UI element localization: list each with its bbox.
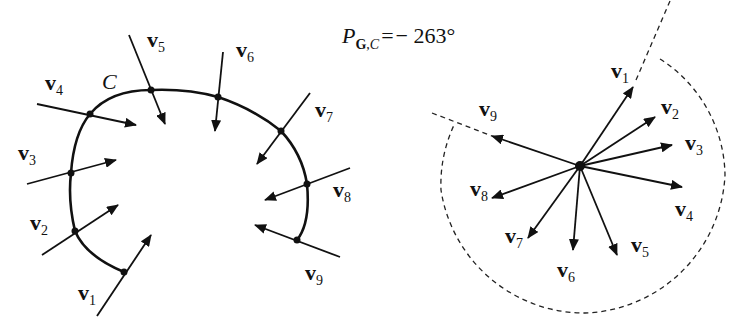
curve-point-7: [278, 128, 285, 135]
curve-point-3: [68, 170, 75, 177]
polar-vector-6-label: v6: [557, 257, 575, 285]
curve-vector-9-label: v9: [305, 260, 323, 288]
polar-vector-9-label: v9: [479, 96, 497, 124]
polar-vector-5-label: v5: [631, 232, 649, 260]
curve-point-4: [87, 111, 94, 118]
curve-point-1: [121, 269, 128, 276]
curve-vector-2-label: v2: [30, 210, 48, 238]
polar-vector-3-arrow: [580, 145, 672, 166]
dashed-ray-v1: [636, 1, 670, 80]
polar-vector-4-label: v4: [675, 196, 693, 224]
curve-point-2: [72, 228, 79, 235]
curve-vector-4-label: v4: [45, 70, 63, 98]
vector-field-diagram: C v1 v2 v3 v4 v5 v6 v7 v8 v9 PG,C=− 263°: [0, 0, 745, 335]
curve-label: C: [102, 69, 117, 94]
curve-vector-1-label: v1: [78, 280, 96, 308]
curve-c: [70, 90, 308, 272]
curve-vector-3-label: v3: [18, 140, 36, 168]
curve-vector-6-arrow: [215, 52, 223, 131]
curve-vector-7-arrow: [257, 93, 310, 164]
polar-vector-3-label: v3: [685, 130, 703, 158]
curve-vector-2-arrow: [42, 205, 118, 255]
polar-vector-6-arrow: [573, 166, 580, 250]
polar-vector-1-arrow: [580, 87, 633, 166]
polar-vector-8-label: v8: [470, 176, 488, 204]
curve-point-9: [294, 237, 301, 244]
polar-vector-4-arrow: [580, 166, 682, 187]
polar-vector-9-arrow: [492, 136, 580, 166]
curve-point-5: [148, 87, 155, 94]
polar-vector-7-label: v7: [505, 223, 523, 251]
curve-vector-6-label: v6: [236, 37, 254, 65]
polar-origin: [575, 161, 585, 171]
curve-vector-8-label: v8: [333, 177, 351, 205]
polar-vector-2-arrow: [580, 117, 655, 166]
polar-vector-8-arrow: [492, 166, 580, 198]
curve-vector-4-arrow: [37, 104, 136, 125]
curve-vector-5-label: v5: [147, 27, 165, 55]
polar-vector-5-arrow: [580, 166, 617, 255]
polar-vector-7-arrow: [528, 166, 580, 238]
polar-vector-panel: v1 v2 v3 v4 v5 v6 v7 v8 v9: [432, 1, 725, 313]
curve-point-6: [215, 94, 222, 101]
curve-vector-7-label: v7: [315, 97, 333, 125]
curve-c-panel: C v1 v2 v3 v4 v5 v6 v7 v8 v9: [18, 27, 351, 316]
polar-vector-2-label: v2: [661, 94, 679, 122]
curve-point-8: [304, 181, 311, 188]
polar-vector-1-label: v1: [611, 58, 629, 86]
winding-formula: PG,C=− 263°: [341, 23, 455, 52]
